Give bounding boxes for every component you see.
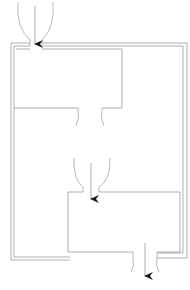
lower-chamber: [68, 192, 180, 252]
outer-channel: [11, 43, 187, 260]
flow-diagram: [0, 0, 190, 290]
outlet-bottom: [131, 243, 159, 276]
outlet-funnel-right: [156, 252, 159, 272]
outlet-funnel-left: [131, 252, 134, 272]
inlet-funnel-left: [18, 2, 30, 46]
upper-chamber: [16, 49, 122, 108]
lower-inlet-funnel-right: [99, 158, 110, 192]
lower-inlet-funnel-left: [74, 158, 83, 192]
upper-outlet: [76, 108, 104, 126]
inlet-top: [18, 2, 54, 46]
lower-inlet: [74, 158, 110, 199]
inlet-funnel-right: [42, 2, 53, 46]
